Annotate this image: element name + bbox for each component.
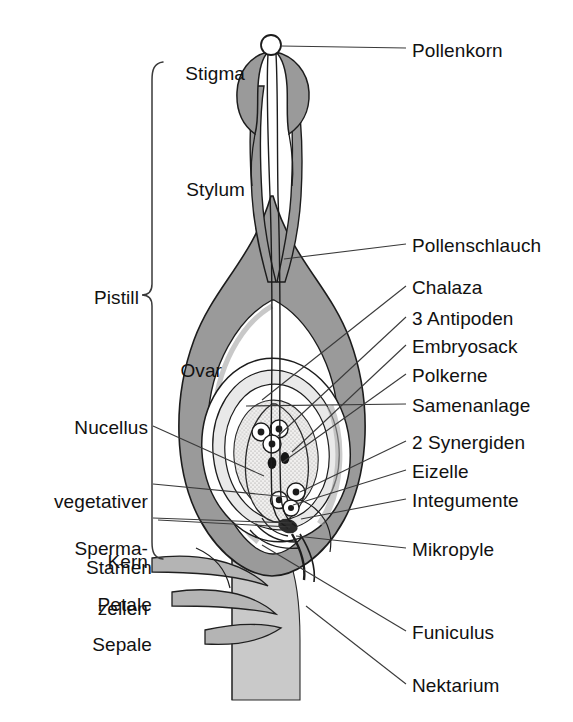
flower-anatomy-figure: Pollenkorn Pollenschlauch Chalaza 3 Anti…: [0, 0, 573, 722]
label-stamen: Stamen: [0, 558, 152, 577]
label-eizelle: Eizelle: [412, 462, 469, 481]
label-petale: Petale: [0, 595, 152, 614]
label-stylum: Stylum: [0, 180, 245, 199]
label-nucellus: Nucellus: [0, 418, 148, 437]
label-spermazellen-line1: Sperma-: [0, 539, 148, 559]
label-mikropyle: Mikropyle: [412, 540, 494, 559]
label-embryosack: Embryosack: [412, 337, 518, 356]
label-integumente: Integumente: [412, 491, 519, 510]
leader-pollenkorn: [281, 46, 406, 48]
leader-nektarium: [306, 606, 406, 684]
label-stigma: Stigma: [0, 64, 245, 83]
label-pollenkorn: Pollenkorn: [412, 41, 503, 60]
label-synergiden: 2 Synergiden: [412, 433, 525, 452]
label-pistill: Pistill: [0, 288, 139, 307]
label-pollenschlauch: Pollenschlauch: [412, 236, 541, 255]
label-antipoden: 3 Antipoden: [412, 309, 513, 328]
label-ovar: Ovar: [0, 361, 222, 380]
label-polkerne: Polkerne: [412, 366, 488, 385]
label-nektarium: Nektarium: [412, 676, 499, 695]
label-chalaza: Chalaza: [412, 278, 482, 297]
label-samenanlage: Samenanlage: [412, 396, 530, 415]
leader-pollenschlauch: [284, 244, 406, 259]
label-sepale: Sepale: [0, 635, 152, 654]
pollen-grain: [261, 35, 281, 55]
label-funiculus: Funiculus: [412, 623, 494, 642]
